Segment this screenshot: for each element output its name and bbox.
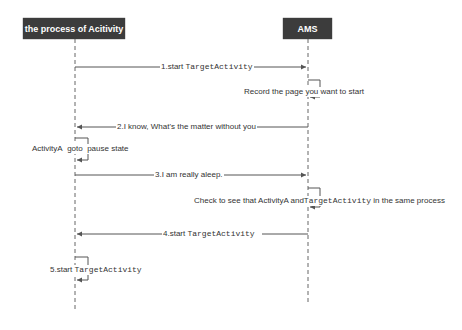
self-message-process-5-label: 5.start TargetActivity — [49, 265, 143, 275]
self-message-ams-2-label: Check to see that ActivityA andTargetAct… — [193, 196, 446, 206]
sequence-lines — [0, 0, 462, 330]
message-1-label: 1.start TargetActivity — [160, 62, 254, 72]
self-message-ams-1-label: Record the page you want to start — [243, 87, 365, 97]
self-message-process-1-label: ActivityA goto pause state — [31, 144, 130, 154]
message-3-label: 3.I am really aleep. — [154, 170, 224, 180]
message-4-label: 4.start TargetActivity — [162, 229, 262, 239]
message-2-label: 2.I know, What's the matter without you — [116, 122, 257, 132]
